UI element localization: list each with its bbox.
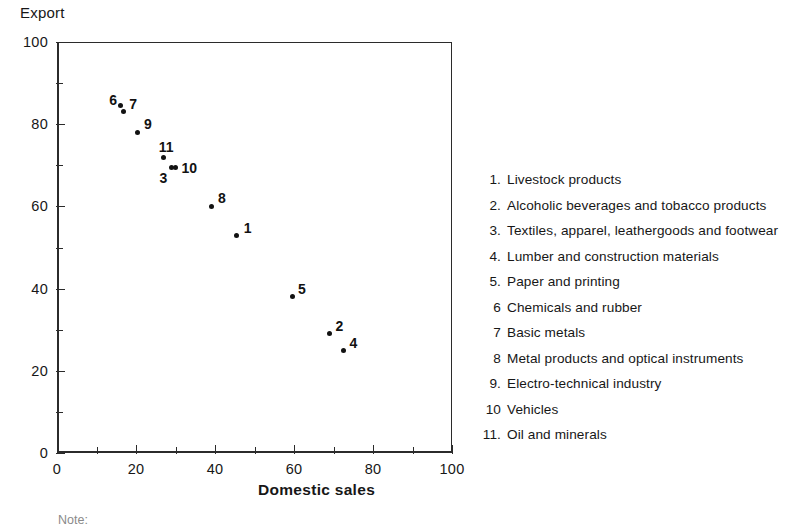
y-tick-minor — [56, 412, 63, 413]
data-point-label-9: 9 — [144, 116, 152, 132]
y-axis-title: Export — [20, 4, 65, 21]
data-point-label-2: 2 — [336, 318, 344, 334]
plot-area: 020406080100 020406080100 1234567891011 — [57, 42, 452, 453]
y-tick-label: 60 — [31, 198, 48, 214]
legend-item-number: 4. — [479, 249, 501, 264]
data-point-label-11: 11 — [159, 139, 174, 155]
y-tick-minor — [56, 330, 63, 331]
y-tick-major — [56, 42, 65, 43]
x-tick-major — [136, 445, 137, 454]
legend-item-label: Vehicles — [507, 402, 558, 417]
y-tick-minor — [56, 248, 63, 249]
data-point-label-7: 7 — [129, 96, 137, 112]
y-tick-minor — [56, 83, 63, 84]
data-point-label-3: 3 — [160, 170, 168, 186]
data-point-label-10: 10 — [182, 160, 198, 176]
legend-item-number: 10 — [479, 402, 501, 417]
x-tick-major — [294, 445, 295, 454]
legend-item-label: Oil and minerals — [507, 427, 607, 442]
legend-item-label: Textiles, apparel, leathergoods and foot… — [507, 223, 778, 238]
legend-item-label: Alcoholic beverages and tobacco products — [507, 198, 766, 213]
x-tick-major — [373, 445, 374, 454]
x-tick-minor — [334, 447, 335, 454]
data-point-label-5: 5 — [298, 281, 306, 297]
y-tick-major — [56, 371, 65, 372]
legend-item-label: Chemicals and rubber — [507, 300, 642, 315]
x-tick-label: 60 — [286, 461, 303, 477]
legend-item-label: Basic metals — [507, 325, 585, 340]
x-axis-title: Domestic sales — [258, 481, 375, 499]
x-tick-minor — [255, 447, 256, 454]
x-tick-major — [215, 445, 216, 454]
x-tick-major — [57, 445, 58, 454]
x-tick-label: 20 — [128, 461, 145, 477]
legend-item-number: 8 — [479, 351, 501, 366]
data-point-11[interactable] — [161, 155, 166, 160]
legend-item[interactable]: 7Basic metals — [479, 325, 795, 351]
legend-item-number: 7 — [479, 325, 501, 340]
legend-item[interactable]: 6Chemicals and rubber — [479, 300, 795, 326]
data-point-4[interactable] — [341, 348, 346, 353]
y-tick-minor — [56, 165, 63, 166]
legend-item[interactable]: 11.Oil and minerals — [479, 427, 795, 453]
y-tick-major — [56, 289, 65, 290]
y-tick-label: 40 — [31, 281, 48, 297]
data-point-label-8: 8 — [218, 190, 226, 206]
x-tick-label: 0 — [53, 461, 61, 477]
legend: 1.Livestock products2.Alcoholic beverage… — [479, 172, 795, 453]
y-tick-label: 100 — [23, 34, 48, 50]
legend-item[interactable]: 10Vehicles — [479, 402, 795, 428]
x-tick-label: 80 — [365, 461, 382, 477]
legend-item[interactable]: 8Metal products and optical instruments — [479, 351, 795, 377]
legend-item-label: Lumber and construction materials — [507, 249, 719, 264]
legend-item[interactable]: 1.Livestock products — [479, 172, 795, 198]
legend-item-number: 1. — [479, 172, 501, 187]
scatter-chart-figure: Export 020406080100 020406080100 1234567… — [0, 0, 797, 524]
legend-item-label: Metal products and optical instruments — [507, 351, 744, 366]
x-tick-label: 40 — [207, 461, 224, 477]
legend-item[interactable]: 9.Electro-technical industry — [479, 376, 795, 402]
x-tick-label: 100 — [439, 461, 464, 477]
legend-item-number: 2. — [479, 198, 501, 213]
legend-item[interactable]: 3.Textiles, apparel, leathergoods and fo… — [479, 223, 795, 249]
data-point-label-6: 6 — [109, 92, 117, 108]
legend-item-label: Paper and printing — [507, 274, 620, 289]
legend-item-number: 11. — [479, 427, 501, 442]
data-point-8[interactable] — [209, 204, 214, 209]
x-tick-minor — [176, 447, 177, 454]
data-point-label-1: 1 — [244, 220, 252, 236]
legend-item[interactable]: 4.Lumber and construction materials — [479, 249, 795, 275]
legend-item[interactable]: 2.Alcoholic beverages and tobacco produc… — [479, 198, 795, 224]
legend-item[interactable]: 5.Paper and printing — [479, 274, 795, 300]
footer-note: Note: — [58, 513, 658, 524]
legend-item-label: Electro-technical industry — [507, 376, 661, 391]
x-tick-minor — [97, 447, 98, 454]
data-point-label-4: 4 — [349, 335, 357, 351]
legend-item-number: 3. — [479, 223, 501, 238]
legend-item-number: 5. — [479, 274, 501, 289]
x-tick-major — [452, 445, 453, 454]
data-point-6[interactable] — [118, 103, 123, 108]
y-tick-label: 20 — [31, 363, 48, 379]
legend-item-label: Livestock products — [507, 172, 621, 187]
y-tick-label: 0 — [40, 445, 48, 461]
data-point-5[interactable] — [290, 294, 295, 299]
x-tick-minor — [413, 447, 414, 454]
data-point-1[interactable] — [234, 233, 239, 238]
legend-item-number: 9. — [479, 376, 501, 391]
y-tick-label: 80 — [31, 116, 48, 132]
y-tick-major — [56, 206, 65, 207]
data-point-10[interactable] — [173, 165, 178, 170]
legend-item-number: 6 — [479, 300, 501, 315]
y-tick-major — [56, 124, 65, 125]
